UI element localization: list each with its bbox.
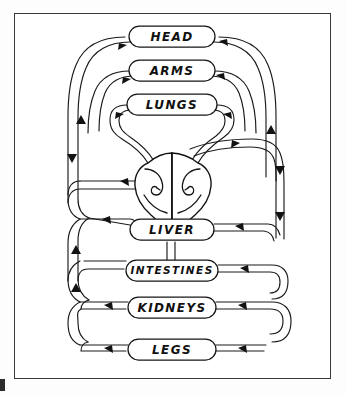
organ-label-intestines: INTESTINES	[130, 264, 213, 276]
vessel-portal-vein	[167, 242, 175, 261]
organ-arms[interactable]: ARMS	[129, 60, 215, 81]
organ-label-legs: LEGS	[152, 343, 192, 357]
organ-label-liver: LIVER	[149, 223, 195, 237]
corner-mark	[0, 379, 5, 391]
organ-label-head: HEAD	[150, 30, 193, 44]
organ-lungs[interactable]: LUNGS	[127, 94, 217, 115]
circulatory-diagram: HEAD ARMS LUNGS LIVER INTESTINES KIDNEYS…	[14, 13, 331, 379]
organ-head[interactable]: HEAD	[129, 26, 215, 47]
organ-label-arms: ARMS	[149, 64, 195, 78]
diagram-page: HEAD ARMS LUNGS LIVER INTESTINES KIDNEYS…	[0, 0, 346, 395]
organ-intestines[interactable]: INTESTINES	[126, 260, 218, 281]
organ-label-kidneys: KIDNEYS	[137, 301, 206, 315]
organ-kidneys[interactable]: KIDNEYS	[128, 297, 216, 318]
organ-label-lungs: LUNGS	[146, 98, 198, 112]
organ-liver[interactable]: LIVER	[130, 219, 214, 240]
organ-legs[interactable]: LEGS	[128, 339, 216, 360]
